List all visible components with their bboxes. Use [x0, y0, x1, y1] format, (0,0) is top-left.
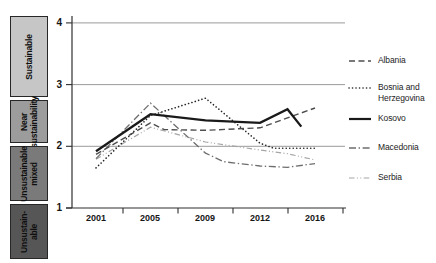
legend-item-serbia: Serbia — [348, 172, 434, 183]
y-tick-label-1: 1 — [42, 202, 62, 213]
legend-item-kosovo: Kosovo — [348, 113, 434, 124]
legend-item-bosnia-and-herzegovina: Bosnia and Herzegovina — [348, 82, 434, 104]
legend-line-sample-albania — [348, 58, 372, 64]
legend-item-macedonia: Macedonia — [348, 142, 434, 153]
msi-line-chart-figure: Sustainable Nearsustainability Unsustain… — [0, 0, 436, 263]
series-line-bosnia-and-herzegovina — [96, 98, 315, 168]
x-tick-label-2012: 2012 — [244, 213, 276, 224]
legend-line-sample-kosovo — [348, 116, 372, 122]
legend-label: Macedonia — [378, 142, 434, 153]
legend-label: Bosnia and Herzegovina — [378, 82, 434, 104]
legend-label: Albania — [378, 55, 434, 66]
legend-label: Serbia — [378, 172, 434, 183]
legend-line-sample-serbia — [348, 175, 372, 181]
legend-line-sample-bosnia — [348, 85, 372, 91]
x-tick-label-2009: 2009 — [189, 213, 221, 224]
series-line-kosovo — [96, 109, 301, 151]
x-tick-label-2001: 2001 — [80, 213, 112, 224]
x-tick-label-2005: 2005 — [134, 213, 166, 224]
legend: Albania Bosnia and Herzegovina Kosovo Ma… — [348, 0, 436, 263]
legend-line-sample-macedonia — [348, 145, 372, 151]
y-tick-label-2: 2 — [42, 140, 62, 151]
series-line-serbia — [96, 127, 315, 160]
series-line-albania — [96, 108, 315, 154]
y-tick-label-3: 3 — [42, 79, 62, 90]
legend-item-albania: Albania — [348, 55, 434, 66]
legend-label: Kosovo — [378, 113, 434, 124]
x-tick-label-2016: 2016 — [299, 213, 331, 224]
y-tick-label-4: 4 — [42, 17, 62, 28]
